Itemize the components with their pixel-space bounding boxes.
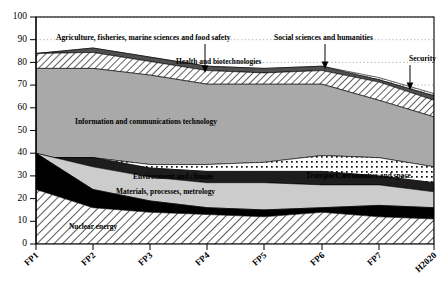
x-tick-label-fp6: FP6	[308, 250, 327, 268]
series-label-nuclear: Nuclear energy	[69, 222, 117, 231]
series-label-transport: Transport, aeronautics and space	[306, 171, 412, 180]
series-label-health: Health and biotechnologies	[176, 57, 262, 66]
annotation-label-security: Security	[409, 54, 436, 63]
y-tick-label-30: 30	[18, 170, 28, 180]
y-tick-label-50: 50	[18, 125, 28, 135]
chart-container: 100 90 80 70 60 50 40 30 20 10 0 FP1 FP2…	[0, 0, 446, 289]
y-tick-label-90: 90	[18, 34, 28, 44]
series-label-ict: Information and communications technolog…	[75, 117, 217, 126]
x-tick-label-fp4: FP4	[193, 250, 212, 268]
series-label-non-nuclear: Non-nuclear energy	[176, 206, 239, 215]
y-tick-label-0: 0	[22, 238, 27, 248]
x-tick-label-fp2: FP2	[79, 250, 98, 268]
y-tick-label-100: 100	[13, 11, 28, 21]
y-tick-label-60: 60	[18, 102, 28, 112]
x-tick-label-fp5: FP5	[250, 250, 269, 268]
x-tick-label-fp3: FP3	[136, 250, 155, 268]
series-label-materials: Materials, processes, metrology	[116, 187, 215, 196]
x-tick-label-fp1: FP1	[22, 250, 41, 268]
y-axis: 100 90 80 70 60 50 40 30 20 10 0	[13, 11, 36, 248]
x-axis-ticks	[36, 244, 434, 250]
stacked-area-chart: 100 90 80 70 60 50 40 30 20 10 0 FP1 FP2…	[0, 0, 446, 289]
annotation-label-agriculture: Agriculture, fisheries, marine sciences …	[56, 33, 231, 42]
annotation-label-social-sciences: Social sciences and humanities	[274, 33, 373, 42]
y-axis-ticks	[30, 17, 36, 244]
y-tick-label-40: 40	[18, 147, 28, 157]
y-tick-label-70: 70	[18, 79, 28, 89]
y-tick-label-10: 10	[18, 215, 28, 225]
y-tick-label-80: 80	[18, 57, 28, 67]
x-tick-label-fp7: FP7	[365, 250, 384, 268]
series-label-environment: Environment and climate	[133, 172, 214, 181]
x-axis: FP1 FP2 FP3 FP4 FP5 FP6 FP7 H2020	[22, 244, 439, 274]
x-tick-label-h2020: H2020	[413, 250, 439, 274]
y-tick-label-20: 20	[18, 193, 28, 203]
